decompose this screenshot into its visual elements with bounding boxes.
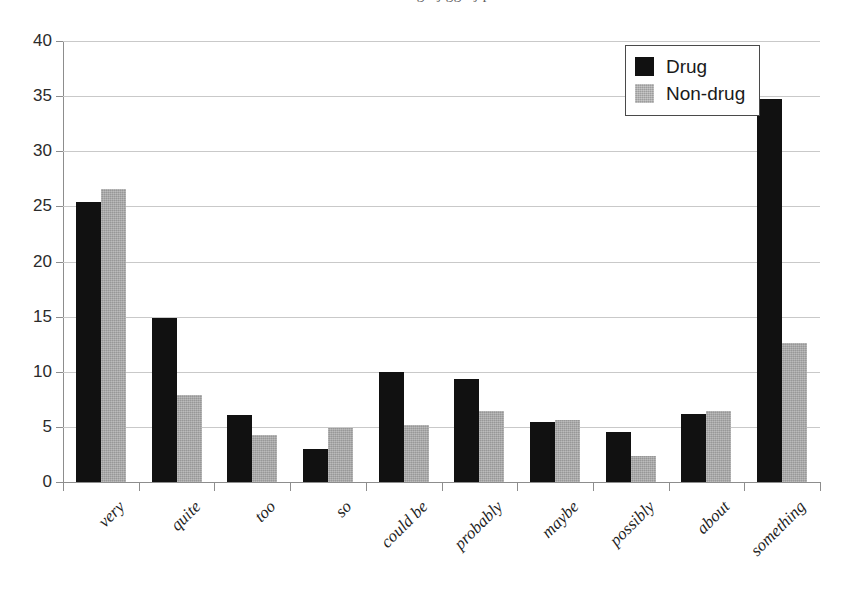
bar-drug xyxy=(303,449,328,482)
bar-non-drug xyxy=(479,411,504,482)
bar-non-drug xyxy=(631,456,656,482)
x-tick-mark xyxy=(214,482,215,491)
y-tick-mark-40 xyxy=(56,41,63,42)
bar-drug xyxy=(757,99,782,482)
x-axis-label-quite: quite xyxy=(167,497,205,535)
x-tick-mark xyxy=(366,482,367,491)
bar-group xyxy=(76,41,126,482)
bar-drug xyxy=(379,372,404,482)
y-tick-label-15: 15 xyxy=(8,307,52,327)
legend-entry-nondrug: Non-drug xyxy=(635,80,745,107)
y-tick-label-40: 40 xyxy=(8,31,52,51)
x-axis-label-maybe: maybe xyxy=(538,497,584,543)
bar-group xyxy=(152,41,202,482)
y-tick-mark-30 xyxy=(56,151,63,152)
x-tick-mark xyxy=(442,482,443,491)
bar-drug xyxy=(152,318,177,482)
y-axis-tick-labels: 4035302520151050 xyxy=(0,41,52,482)
x-tick-mark xyxy=(139,482,140,491)
y-tick-mark-5 xyxy=(56,427,63,428)
bar-non-drug xyxy=(252,435,277,482)
bar-group xyxy=(379,41,429,482)
x-axis-label-so: so xyxy=(331,497,356,522)
y-tick-mark-20 xyxy=(56,262,63,263)
x-tick-mark xyxy=(290,482,291,491)
bar-non-drug xyxy=(555,420,580,482)
bar-drug xyxy=(76,202,101,482)
y-tick-mark-0 xyxy=(56,482,63,483)
x-tick-mark xyxy=(517,482,518,491)
y-tick-mark-35 xyxy=(56,96,63,97)
legend-swatch-drug-icon xyxy=(635,57,654,76)
bar-group xyxy=(227,41,277,482)
y-tick-label-25: 25 xyxy=(8,196,52,216)
y-tick-label-10: 10 xyxy=(8,362,52,382)
x-axis-label-very: very xyxy=(94,497,129,532)
y-tick-label-35: 35 xyxy=(8,86,52,106)
bar-drug xyxy=(606,432,631,482)
y-tick-label-30: 30 xyxy=(8,141,52,161)
cut-off-caption-text: a bcdefghij gghij p xyxy=(0,0,861,4)
x-tick-mark xyxy=(744,482,745,491)
bar-chart-figure: a bcdefghij gghij p 4035302520151050 ver… xyxy=(0,0,861,596)
bar-non-drug xyxy=(782,343,807,482)
bar-drug xyxy=(227,415,252,482)
x-axis-label-something: something xyxy=(747,497,811,561)
bar-drug xyxy=(454,379,479,482)
x-axis-label-could-be: could be xyxy=(377,497,432,552)
bar-non-drug xyxy=(706,411,731,482)
x-axis-label-about: about xyxy=(693,497,735,539)
y-tick-label-0: 0 xyxy=(8,472,52,492)
bar-non-drug xyxy=(328,428,353,482)
bar-non-drug xyxy=(177,395,202,482)
legend-entry-drug: Drug xyxy=(635,53,745,80)
y-tick-mark-10 xyxy=(56,372,63,373)
bar-drug xyxy=(530,422,555,482)
y-tick-label-20: 20 xyxy=(8,252,52,272)
chart-legend: Drug Non-drug xyxy=(625,45,760,116)
bar-non-drug xyxy=(404,425,429,482)
y-tick-label-5: 5 xyxy=(8,417,52,437)
bar-group xyxy=(454,41,504,482)
legend-swatch-nondrug-icon xyxy=(635,84,654,103)
x-tick-mark xyxy=(593,482,594,491)
legend-label-drug: Drug xyxy=(666,56,707,78)
bar-group xyxy=(757,41,807,482)
legend-label-nondrug: Non-drug xyxy=(666,83,745,105)
bar-drug xyxy=(681,414,706,482)
y-tick-mark-15 xyxy=(56,317,63,318)
y-tick-mark-25 xyxy=(56,206,63,207)
bar-non-drug xyxy=(101,189,126,482)
bar-group xyxy=(530,41,580,482)
x-axis-label-possibly: possibly xyxy=(605,497,659,551)
x-tick-mark xyxy=(63,482,64,491)
bar-group xyxy=(303,41,353,482)
x-tick-mark xyxy=(669,482,670,491)
x-axis-label-probably: probably xyxy=(450,497,507,554)
x-tick-mark xyxy=(820,482,821,491)
x-axis-label-too: too xyxy=(251,497,281,527)
